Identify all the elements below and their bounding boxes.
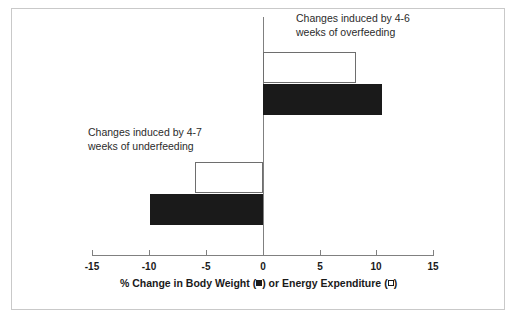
x-tick-label-15: 15 [413, 260, 453, 273]
x-tick-label-10: 10 [356, 260, 396, 273]
x-tick-mark-15 [433, 250, 434, 256]
x-tick-label--15: -15 [72, 260, 112, 273]
x-tick-mark-5 [320, 250, 321, 256]
x-axis-title-middle: ) or Energy Expenditure ( [262, 277, 387, 289]
x-tick-mark-0 [263, 250, 264, 256]
x-axis-title: % Change in Body Weight () or Energy Exp… [0, 277, 517, 289]
bar-underfeeding-body-weight [150, 194, 263, 225]
x-tick-mark--15 [92, 250, 93, 256]
chart-figure: -15 -10 -5 0 5 10 15 Changes induced by … [0, 0, 517, 318]
x-tick-mark-10 [376, 250, 377, 256]
overfeeding-annotation: Changes induced by 4-6 weeks of overfeed… [296, 11, 476, 39]
x-axis-title-prefix: % Change in Body Weight ( [120, 277, 256, 289]
x-tick-mark--5 [206, 250, 207, 256]
bar-overfeeding-body-weight [263, 84, 382, 115]
x-tick-label--5: -5 [186, 260, 226, 273]
x-tick-mark--10 [149, 250, 150, 256]
x-tick-label--10: -10 [129, 260, 169, 273]
x-tick-label-5: 5 [300, 260, 340, 273]
x-tick-label-0: 0 [243, 260, 283, 273]
bar-overfeeding-energy-expenditure [263, 52, 356, 83]
underfeeding-annotation: Changes induced by 4-7 weeks of underfee… [88, 125, 268, 153]
bar-underfeeding-energy-expenditure [195, 162, 263, 193]
plot-area: -15 -10 -5 0 5 10 15 Changes induced by … [0, 0, 517, 318]
x-axis-title-suffix: ) [394, 277, 398, 289]
